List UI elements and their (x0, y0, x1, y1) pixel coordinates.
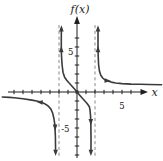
x-axis-label: x (152, 86, 159, 99)
y-tick-label-pos5: 5 (68, 47, 73, 57)
x-axis-arrow (141, 89, 149, 95)
curve-arrow-up-icon (96, 46, 101, 52)
y-tick-label-neg5: -5 (61, 124, 69, 134)
function-graph: f(x) x 5 -5 5 (0, 0, 163, 161)
x-tick-label-5: 5 (119, 101, 124, 111)
curve-arrows (36, 25, 111, 156)
function-graph-figure: f(x) x 5 -5 5 (0, 0, 163, 161)
function-curves (2, 29, 161, 153)
curve-arrow-up-icon (59, 25, 64, 31)
axes (8, 16, 148, 158)
function-branch-right (98, 29, 162, 85)
curve-arrow-down-icon (89, 119, 94, 125)
curve-arrow-up-icon (96, 25, 101, 31)
y-axis-label: f(x) (70, 3, 90, 16)
curve-arrow-down-icon (53, 125, 58, 131)
curve-arrow-left-icon (36, 100, 43, 105)
y-axis-arrow (74, 16, 80, 24)
curve-arrow-up-icon (59, 46, 64, 52)
curve-arrow-down-icon (53, 150, 58, 156)
function-branch-left (2, 97, 55, 153)
origin-point (75, 90, 79, 94)
curve-arrow-down-icon (89, 150, 94, 156)
